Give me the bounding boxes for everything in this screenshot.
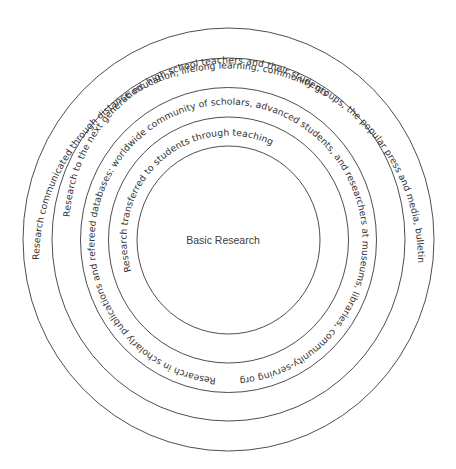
concentric-research-diagram: Research transferred to students through… <box>0 0 456 469</box>
center-label: Basic Research <box>186 234 260 246</box>
ring-2-label: Research in scholarly publications and r… <box>0 0 372 387</box>
